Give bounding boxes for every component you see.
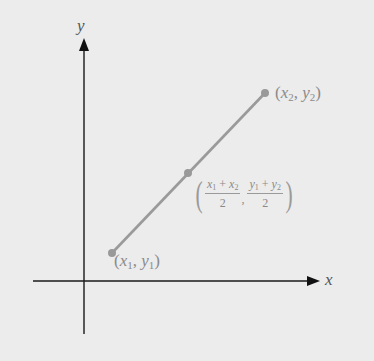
sub: 2 [234,183,238,192]
var-y: y [302,83,310,102]
paren-close: ) [315,83,321,102]
paren-close: ) [154,251,160,270]
comma: , [241,192,244,207]
y-fraction: y1 + y2 2 [247,177,282,211]
paren-open: ( [195,176,202,212]
var-y: y [141,251,149,270]
midpoint-diagram: y x (x2, y2) (x1, y1) ( x1 + x2 2 , y1 +… [0,0,374,361]
x-axis-label: x [325,271,333,288]
plus: + [259,177,272,191]
separator: , [294,83,303,102]
y-axis [79,38,89,334]
paren-close: ) [285,176,292,212]
plus: + [216,177,229,191]
point-p2 [261,89,269,97]
point-p2-label: (x2, y2) [275,84,321,103]
point-midpoint [184,169,192,177]
sub: 2 [277,183,281,192]
y-numerator: y1 + y2 [247,177,282,194]
x-axis-arrow-icon [307,276,320,286]
x-fraction: x1 + x2 2 [205,177,240,211]
y-axis-label: y [77,17,85,34]
diagram-graphics [0,0,374,361]
x-axis [33,276,320,286]
y-denominator: 2 [262,194,268,211]
point-p1-label: (x1, y1) [114,252,160,271]
x-denominator: 2 [220,194,226,211]
y-axis-arrow-icon [79,38,89,51]
separator: , [133,251,142,270]
midpoint-label: ( x1 + x2 2 , y1 + y2 2 ) [193,176,295,212]
x-numerator: x1 + x2 [205,177,240,194]
